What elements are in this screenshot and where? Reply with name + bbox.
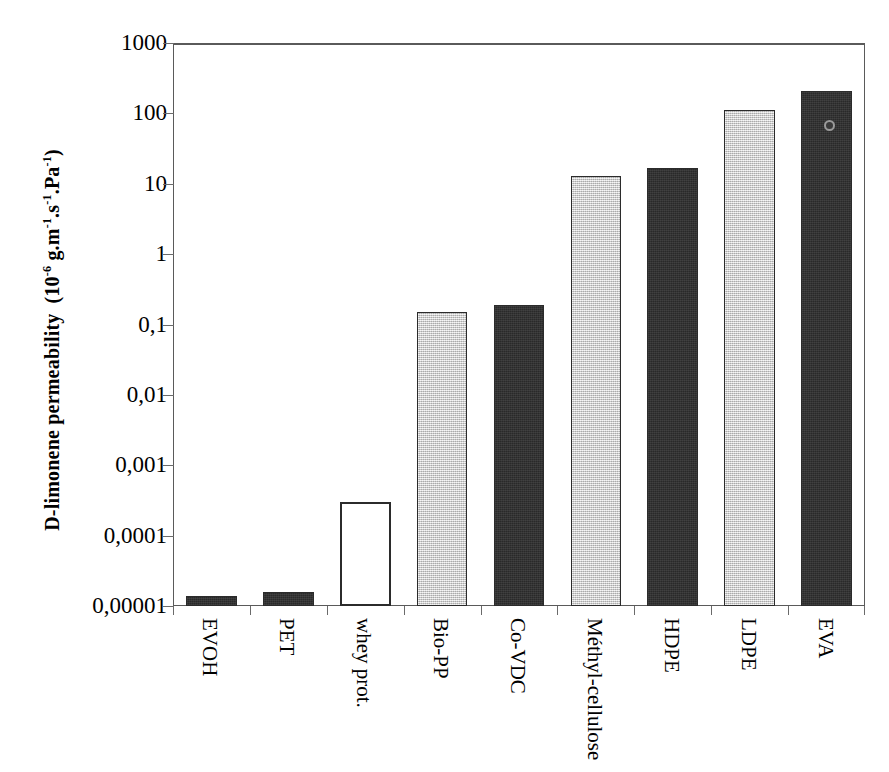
- bars-layer: [173, 43, 865, 606]
- x-axis-tick-mark: [481, 606, 482, 615]
- y-axis-tick-label: 0,01: [127, 382, 167, 408]
- y-axis-unit-open: (10: [41, 276, 63, 303]
- x-axis-category-label: LDPE: [738, 618, 760, 768]
- bar: [186, 596, 237, 606]
- x-axis-tick-mark: [634, 606, 635, 615]
- x-axis-category-label: Co-VDC: [507, 618, 529, 768]
- y-axis-tick-label: 1000: [121, 30, 167, 56]
- bar: [801, 91, 852, 606]
- bar: [340, 502, 391, 606]
- x-axis-category-label: EVOH: [199, 618, 221, 768]
- x-axis-labels: EVOHPETwhey prot.Bio-PPCo-VDCMéthyl-cell…: [173, 618, 865, 772]
- bar: [724, 110, 775, 606]
- y-axis-unit-exponent-3: -1: [40, 194, 54, 204]
- y-axis-unit-exponent-2: -1: [40, 218, 54, 228]
- y-axis-unit-s: .s: [41, 205, 63, 218]
- x-axis-tick-mark: [327, 606, 328, 615]
- x-axis-tick-mark: [250, 606, 251, 615]
- x-axis-tick-mark: [711, 606, 712, 615]
- y-axis-tick-label: 0,0001: [104, 523, 167, 549]
- bar: [571, 176, 622, 606]
- x-axis-category-label: PET: [276, 618, 298, 768]
- scan-artifact-speck-icon: [824, 120, 835, 131]
- y-axis-unit-exponent-1: -6: [40, 266, 54, 276]
- y-axis-tick-label: 0,00001: [92, 593, 167, 619]
- y-axis-unit-exponent-4: -1: [40, 156, 54, 166]
- x-axis-tick-mark: [557, 606, 558, 615]
- x-axis-tick-mark: [404, 606, 405, 615]
- y-axis-title-main: D-limonene permeability: [41, 313, 63, 530]
- y-axis-unit-pa: .Pa: [41, 166, 63, 194]
- x-axis-tick-mark: [788, 606, 789, 615]
- y-axis-tick-label: 100: [133, 100, 168, 126]
- x-axis-category-label: Bio-PP: [430, 618, 452, 768]
- bar: [263, 592, 314, 606]
- x-axis-category-label: HDPE: [661, 618, 683, 768]
- x-axis-category-label: Méthyl-cellulose: [584, 618, 606, 768]
- x-axis-category-label: whey prot.: [353, 618, 375, 768]
- y-axis-tick-label: 0,001: [115, 452, 167, 478]
- y-axis-unit-close: ): [41, 149, 63, 156]
- x-axis-tick-mark: [173, 606, 174, 615]
- y-axis-unit-gm: g.m: [41, 228, 63, 265]
- x-axis-category-label: EVA: [815, 618, 837, 768]
- bar: [647, 168, 698, 606]
- y-axis-title: D-limonene permeability(10-6 g.m-1.s-1.P…: [40, 40, 80, 640]
- bar: [494, 305, 545, 606]
- x-axis-tick-mark: [864, 606, 865, 615]
- x-axis-ticks: [173, 606, 865, 616]
- bar: [417, 312, 468, 606]
- bar-chart: D-limonene permeability(10-6 g.m-1.s-1.P…: [0, 0, 889, 772]
